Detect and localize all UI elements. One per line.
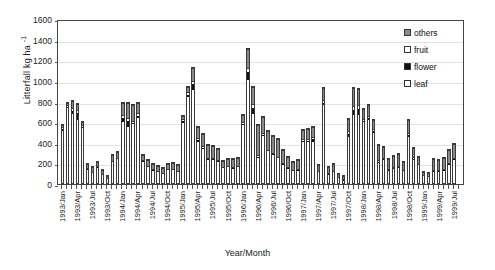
stacked-bar[interactable] [241, 114, 245, 184]
stacked-bar[interactable] [311, 126, 315, 184]
stacked-bar[interactable] [231, 158, 235, 184]
stacked-bar[interactable] [357, 88, 361, 184]
stacked-bar[interactable] [156, 165, 160, 184]
stacked-bar[interactable] [191, 67, 195, 184]
bar-segment-leaf [117, 160, 119, 183]
stacked-bar[interactable] [136, 102, 140, 185]
stacked-bar[interactable] [81, 121, 85, 184]
bar-segment-leaf [192, 90, 194, 183]
stacked-bar[interactable] [171, 162, 175, 184]
stacked-bar[interactable] [352, 87, 356, 184]
stacked-bar[interactable] [86, 163, 90, 184]
stacked-bar[interactable] [422, 171, 426, 184]
bar-series-group [58, 21, 463, 184]
stacked-bar[interactable] [332, 163, 336, 184]
stacked-bar[interactable] [151, 163, 155, 184]
stacked-bar[interactable] [116, 151, 120, 184]
stacked-bar[interactable] [432, 158, 436, 184]
stacked-bar[interactable] [342, 175, 346, 184]
bar-segment-leaf [122, 122, 124, 183]
stacked-bar[interactable] [221, 160, 225, 184]
stacked-bar[interactable] [106, 175, 110, 184]
stacked-bar[interactable] [121, 102, 125, 185]
stacked-bar[interactable] [447, 149, 451, 184]
stacked-bar[interactable] [166, 163, 170, 184]
stacked-bar[interactable] [367, 104, 371, 184]
stacked-bar[interactable] [452, 143, 456, 184]
stacked-bar[interactable] [176, 164, 180, 184]
stacked-bar[interactable] [427, 172, 431, 184]
stacked-bar[interactable] [412, 147, 416, 184]
stacked-bar[interactable] [266, 130, 270, 184]
stacked-bar[interactable] [347, 118, 351, 184]
stacked-bar[interactable] [161, 167, 165, 184]
stacked-bar[interactable] [211, 145, 215, 184]
stacked-bar[interactable] [296, 159, 300, 184]
stacked-bar[interactable] [387, 158, 391, 184]
bar-segment-others [363, 109, 365, 119]
stacked-bar[interactable] [131, 104, 135, 184]
stacked-bar[interactable] [362, 108, 366, 184]
bar-segment-leaf [242, 125, 244, 183]
stacked-bar[interactable] [402, 161, 406, 184]
stacked-bar[interactable] [397, 153, 401, 184]
bar-segment-others [358, 89, 360, 106]
bar-segment-leaf [87, 170, 89, 183]
stacked-bar[interactable] [337, 173, 341, 184]
stacked-bar[interactable] [442, 157, 446, 184]
stacked-bar[interactable] [437, 159, 441, 184]
stacked-bar[interactable] [407, 119, 411, 184]
stacked-bar[interactable] [226, 158, 230, 184]
stacked-bar[interactable] [392, 155, 396, 184]
stacked-bar[interactable] [281, 149, 285, 184]
bar-segment-flower [77, 113, 79, 120]
stacked-bar[interactable] [76, 103, 80, 184]
bar-segment-others [272, 136, 274, 153]
stacked-bar[interactable] [141, 154, 145, 184]
stacked-bar[interactable] [291, 161, 295, 184]
bar-segment-leaf [212, 160, 214, 183]
stacked-bar[interactable] [382, 146, 386, 184]
legend-label-fruit: fruit [414, 45, 428, 55]
stacked-bar[interactable] [271, 135, 275, 185]
stacked-bar[interactable] [91, 166, 95, 184]
stacked-bar[interactable] [111, 154, 115, 184]
stacked-bar[interactable] [246, 48, 250, 184]
stacked-bar[interactable] [417, 156, 421, 184]
bar-segment-others [237, 158, 239, 166]
bar-segment-others [383, 147, 385, 158]
stacked-bar[interactable] [126, 102, 130, 185]
stacked-bar[interactable] [206, 144, 210, 184]
bar-segment-others [292, 162, 294, 170]
stacked-bar[interactable] [196, 126, 200, 184]
stacked-bar[interactable] [322, 87, 326, 184]
stacked-bar[interactable] [201, 133, 205, 184]
bar-segment-leaf [348, 137, 350, 184]
stacked-bar[interactable] [181, 115, 185, 184]
stacked-bar[interactable] [276, 138, 280, 184]
stacked-bar[interactable] [61, 124, 65, 184]
stacked-bar[interactable] [372, 119, 376, 184]
stacked-bar[interactable] [301, 129, 305, 184]
stacked-bar[interactable] [66, 102, 70, 185]
stacked-bar[interactable] [186, 86, 190, 184]
stacked-bar[interactable] [327, 166, 331, 184]
stacked-bar[interactable] [146, 159, 150, 184]
stacked-bar[interactable] [377, 144, 381, 184]
stacked-bar[interactable] [306, 128, 310, 184]
bar-segment-leaf [162, 174, 164, 183]
stacked-bar[interactable] [286, 156, 290, 184]
stacked-bar[interactable] [251, 86, 255, 184]
stacked-bar[interactable] [236, 157, 240, 184]
stacked-bar[interactable] [101, 169, 105, 184]
stacked-bar[interactable] [317, 164, 321, 184]
stacked-bar[interactable] [256, 124, 260, 184]
stacked-bar[interactable] [96, 161, 100, 184]
bar-segment-others [348, 119, 350, 131]
bar-segment-leaf [388, 171, 390, 183]
bar-segment-flower [247, 72, 249, 80]
stacked-bar[interactable] [261, 116, 265, 184]
stacked-bar[interactable] [71, 100, 75, 184]
stacked-bar[interactable] [216, 148, 220, 184]
y-tick-label-1600: 1600 [33, 15, 52, 25]
